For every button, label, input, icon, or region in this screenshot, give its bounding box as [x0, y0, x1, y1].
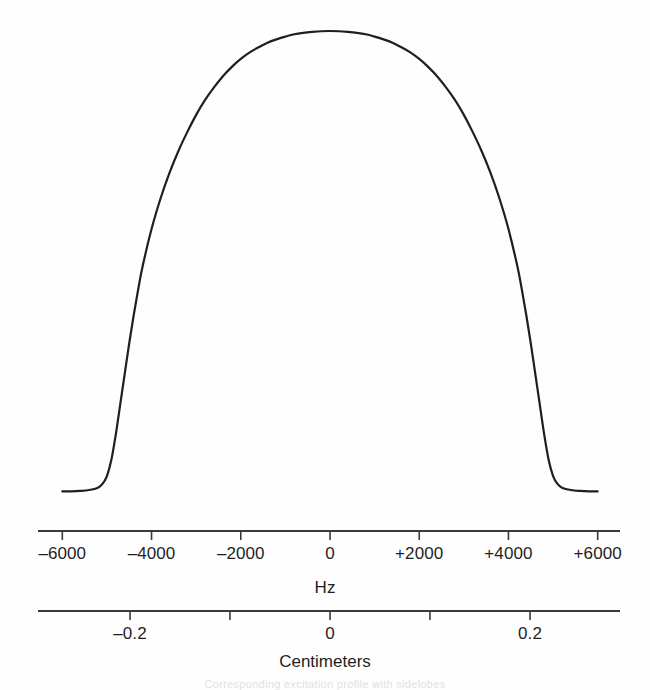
page-caption-fragment: Corresponding excitation profile with si…	[0, 678, 650, 690]
distance-axis-title: Centimeters	[279, 652, 371, 672]
frequency-axis	[38, 531, 620, 540]
distance-tick-label: 0.2	[518, 624, 542, 644]
frequency-tick-label: –4000	[128, 544, 176, 564]
distance-tick-label: 0	[325, 624, 335, 644]
frequency-axis-title: Hz	[315, 578, 336, 598]
frequency-tick-label: +4000	[484, 544, 532, 564]
frequency-tick-label: 0	[325, 544, 335, 564]
distance-axis	[38, 611, 620, 620]
frequency-tick-label: –2000	[217, 544, 265, 564]
frequency-tick-label: –6000	[38, 544, 86, 564]
frequency-tick-label: +2000	[395, 544, 443, 564]
profile-curve	[62, 31, 597, 491]
frequency-tick-label: +6000	[574, 544, 622, 564]
distance-tick-label: –0.2	[113, 624, 147, 644]
figure-container: –6000–4000–20000+2000+4000+6000 Hz –0.20…	[0, 0, 650, 690]
